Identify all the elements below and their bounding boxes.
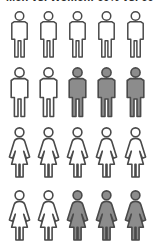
figure-head [44, 191, 53, 200]
figure-body [70, 22, 85, 57]
figure-head [131, 68, 140, 77]
figure-head [73, 68, 82, 77]
female-figure-icon [92, 189, 121, 245]
figure-head [102, 12, 111, 21]
figure-head [15, 191, 24, 200]
figure-body [40, 79, 57, 117]
figure-body [99, 22, 114, 57]
figure-body [41, 22, 56, 57]
page-title: Men vs. Women: 60% vs. 60% [6, 0, 153, 3]
figure-body [125, 138, 145, 177]
figure-body [96, 138, 116, 177]
female-figure-icon [34, 189, 63, 245]
figure-body [38, 201, 58, 240]
figure-head [73, 128, 82, 137]
figure-body [67, 138, 87, 177]
figure-head [102, 68, 111, 77]
male-figure-icon [34, 10, 63, 62]
female-figure-icon [92, 126, 121, 187]
figure-body [67, 201, 87, 240]
figure-head [44, 128, 53, 137]
pictogram-row-female-2 [0, 126, 153, 187]
male-figure-icon [121, 66, 150, 123]
figure-body [128, 22, 143, 57]
figure-head [131, 191, 140, 200]
figure-body [38, 138, 58, 177]
male-figure-icon [34, 66, 63, 123]
figure-body [9, 201, 29, 240]
figure-head [15, 128, 24, 137]
figure-body [11, 79, 28, 117]
figure-body [127, 79, 144, 117]
male-figure-icon [63, 66, 92, 123]
female-figure-icon [63, 126, 92, 187]
male-figure-icon [63, 10, 92, 62]
caption-strip: Men vs. Women: 60% vs. 60% [0, 0, 153, 6]
figure-body [12, 22, 27, 57]
female-figure-icon [121, 189, 150, 245]
figure-head [15, 12, 24, 21]
figure-head [73, 191, 82, 200]
figure-head [73, 12, 82, 21]
figure-body [96, 201, 116, 240]
male-figure-icon [5, 66, 34, 123]
male-figure-icon [92, 10, 121, 62]
figure-head [44, 12, 53, 21]
pictogram-infographic: Men vs. Women: 60% vs. 60% [0, 0, 153, 250]
female-figure-icon [34, 126, 63, 187]
figure-head [15, 68, 24, 77]
female-figure-icon [121, 126, 150, 187]
figure-body [9, 138, 29, 177]
female-figure-icon [63, 189, 92, 245]
male-figure-icon [5, 10, 34, 62]
figure-head [102, 128, 111, 137]
female-figure-icon [5, 126, 34, 187]
male-figure-icon [92, 66, 121, 123]
male-figure-icon [121, 10, 150, 62]
figure-head [102, 191, 111, 200]
figure-head [131, 128, 140, 137]
figure-body [69, 79, 86, 117]
pictogram-row-female-3 [0, 189, 153, 245]
female-figure-icon [5, 189, 34, 245]
figure-body [125, 201, 145, 240]
pictogram-row-male-0 [0, 10, 153, 62]
figure-head [131, 12, 140, 21]
figure-body [98, 79, 115, 117]
figure-head [44, 68, 53, 77]
pictogram-row-male-1 [0, 66, 153, 123]
